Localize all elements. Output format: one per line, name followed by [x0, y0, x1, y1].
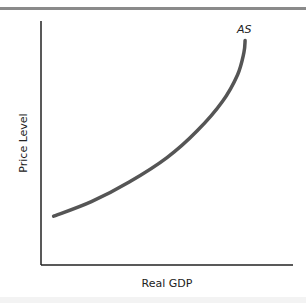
as-curve-label: AS [236, 23, 252, 36]
y-axis-label: Price Level [17, 113, 30, 172]
as-chart: AS Real GDP Price Level [0, 0, 306, 303]
as-curve [54, 41, 246, 217]
x-axis-label: Real GDP [142, 277, 193, 290]
